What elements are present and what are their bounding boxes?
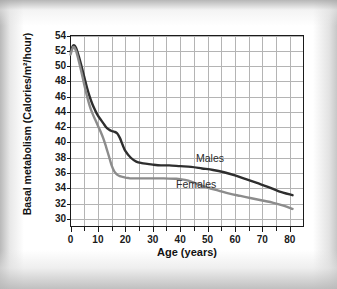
x-tick-label: 40 (166, 235, 194, 245)
y-axis-title-wrapper: Basal metabolism (Calories/m²/hour) (21, 24, 35, 224)
x-tick-label: 0 (57, 235, 85, 245)
y-tick-label: 30 (40, 214, 66, 224)
y-tick-label: 50 (40, 61, 66, 71)
x-axis-title: Age (years) (70, 246, 304, 258)
y-axis-title: Basal metabolism (Calories/m²/hour) (21, 24, 33, 224)
y-tick-label: 44 (40, 107, 66, 117)
grid-lines (71, 36, 304, 227)
y-tick-label: 48 (40, 76, 66, 86)
series-line-males (71, 45, 293, 195)
x-tick-label: 60 (221, 235, 249, 245)
y-tick-label: 46 (40, 92, 66, 102)
x-tick-label: 70 (248, 235, 276, 245)
x-tick-label: 10 (84, 235, 112, 245)
series-annotation-females: Females (176, 178, 216, 190)
y-tick-label: 32 (40, 199, 66, 209)
x-tick-label: 20 (111, 235, 139, 245)
plot-frame (71, 36, 304, 227)
series-annotation-males: Males (196, 152, 224, 164)
x-tick-label: 80 (276, 235, 304, 245)
y-tick-label: 34 (40, 183, 66, 193)
x-tick-label: 30 (139, 235, 167, 245)
y-tick-label: 36 (40, 168, 66, 178)
y-tick-label: 40 (40, 137, 66, 147)
y-tick-label: 42 (40, 122, 66, 132)
y-tick-label: 54 (40, 31, 66, 41)
y-tick-label: 38 (40, 153, 66, 163)
plot-area-border (71, 36, 304, 227)
x-tick-label: 50 (194, 235, 222, 245)
y-tick-label: 52 (40, 46, 66, 56)
figure-root: 3032343638404244464850525401020304050607… (0, 0, 337, 289)
axis-ticks (67, 37, 291, 232)
